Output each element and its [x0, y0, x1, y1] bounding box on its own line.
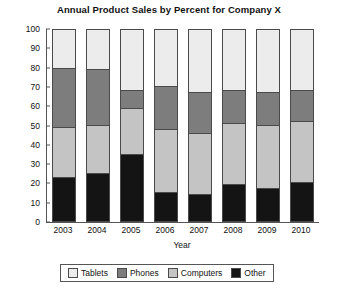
y-tick-label: 60: [0, 101, 40, 111]
x-tick-label: 2009: [250, 225, 284, 235]
bar-segment-computers[interactable]: [155, 129, 177, 192]
bar-slot: [149, 29, 183, 222]
bar-segment-phones[interactable]: [121, 90, 143, 108]
chart-container: Annual Product Sales by Percent for Comp…: [0, 0, 338, 292]
bar-segment-tablets[interactable]: [155, 30, 177, 86]
stacked-bar[interactable]: [222, 29, 246, 222]
legend-item-other[interactable]: Other: [231, 268, 265, 278]
legend-label: Other: [244, 268, 265, 278]
y-tick-label: 70: [0, 82, 40, 92]
legend-swatch-other-icon: [231, 268, 241, 278]
y-tick-label: 10: [0, 198, 40, 208]
x-tick-label: 2004: [80, 225, 114, 235]
bar-segment-computers[interactable]: [121, 108, 143, 154]
chart-title: Annual Product Sales by Percent for Comp…: [0, 4, 338, 15]
bar-slot: [115, 29, 149, 222]
y-tick-label: 100: [0, 24, 40, 34]
bar-slot: [251, 29, 285, 222]
x-axis-label: Year: [46, 240, 318, 250]
bar-segment-computers[interactable]: [189, 133, 211, 194]
legend-item-computers[interactable]: Computers: [168, 268, 223, 278]
legend-swatch-computers-icon: [168, 268, 178, 278]
x-tick-label: 2003: [46, 225, 80, 235]
bar-segment-phones[interactable]: [223, 90, 245, 123]
bar-segment-tablets[interactable]: [121, 30, 143, 90]
bar-segment-other[interactable]: [189, 194, 211, 221]
y-tick-label: 40: [0, 140, 40, 150]
legend-label: Phones: [130, 268, 159, 278]
x-tick-label: 2008: [216, 225, 250, 235]
bar-segment-tablets[interactable]: [223, 30, 245, 90]
stacked-bar[interactable]: [154, 29, 178, 222]
x-tick-label: 2006: [148, 225, 182, 235]
bar-segment-phones[interactable]: [291, 90, 313, 121]
plot-area: [46, 29, 319, 223]
y-tick-label: 50: [0, 121, 40, 131]
legend-label: Computers: [181, 268, 223, 278]
bar-segment-phones[interactable]: [53, 68, 75, 127]
bar-segment-computers[interactable]: [87, 125, 109, 173]
y-tick-label: 30: [0, 159, 40, 169]
bar-segment-phones[interactable]: [189, 92, 211, 132]
bar-slot: [47, 29, 81, 222]
legend-item-phones[interactable]: Phones: [117, 268, 159, 278]
bar-segment-other[interactable]: [291, 182, 313, 221]
bar-segment-computers[interactable]: [257, 125, 279, 188]
legend-swatch-phones-icon: [117, 268, 127, 278]
bar-slot: [285, 29, 319, 222]
bar-segment-tablets[interactable]: [189, 30, 211, 92]
stacked-bar[interactable]: [188, 29, 212, 222]
bar-group: [47, 29, 319, 222]
bar-segment-computers[interactable]: [291, 121, 313, 182]
bar-segment-computers[interactable]: [223, 123, 245, 184]
bar-segment-phones[interactable]: [155, 86, 177, 128]
y-tick-label: 0: [0, 217, 40, 227]
legend-label: Tablets: [81, 268, 108, 278]
bar-segment-tablets[interactable]: [257, 30, 279, 92]
bar-segment-other[interactable]: [53, 177, 75, 221]
stacked-bar[interactable]: [256, 29, 280, 222]
bar-segment-other[interactable]: [121, 154, 143, 221]
stacked-bar[interactable]: [86, 29, 110, 222]
bar-segment-other[interactable]: [257, 188, 279, 221]
bar-segment-other[interactable]: [155, 192, 177, 221]
y-tick-label: 80: [0, 63, 40, 73]
bar-slot: [81, 29, 115, 222]
legend-swatch-tablets-icon: [68, 268, 78, 278]
bar-segment-phones[interactable]: [257, 92, 279, 125]
y-tick-label: 90: [0, 43, 40, 53]
y-tick-label: 20: [0, 178, 40, 188]
bar-segment-computers[interactable]: [53, 127, 75, 177]
bar-segment-phones[interactable]: [87, 69, 109, 125]
x-axis-tick-labels: 20032004200520062007200820092010: [46, 225, 318, 235]
x-tick-label: 2007: [182, 225, 216, 235]
bar-slot: [183, 29, 217, 222]
legend-item-tablets[interactable]: Tablets: [68, 268, 108, 278]
bar-segment-other[interactable]: [87, 173, 109, 221]
bar-segment-tablets[interactable]: [53, 30, 75, 68]
x-tick-label: 2005: [114, 225, 148, 235]
bar-segment-tablets[interactable]: [87, 30, 109, 69]
chart-legend: TabletsPhonesComputersOther: [60, 264, 274, 282]
x-tick-label: 2010: [284, 225, 318, 235]
bar-segment-tablets[interactable]: [291, 30, 313, 90]
stacked-bar[interactable]: [120, 29, 144, 222]
bar-slot: [217, 29, 251, 222]
bar-segment-other[interactable]: [223, 184, 245, 221]
stacked-bar[interactable]: [290, 29, 314, 222]
stacked-bar[interactable]: [52, 29, 76, 222]
